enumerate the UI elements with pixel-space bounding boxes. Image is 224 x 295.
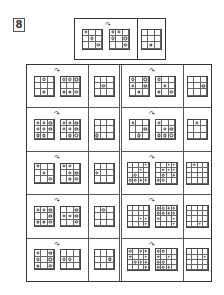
grid-answer[interactable]	[187, 119, 208, 140]
exercise-row: ↷	[27, 65, 119, 108]
grid-first	[34, 76, 55, 97]
answer-cell	[89, 65, 119, 107]
rotation-pair-cell: ↷	[122, 108, 184, 150]
grid-cell-circle	[123, 42, 129, 48]
rotation-pair-cell: ↷	[27, 65, 89, 107]
grid-cell-circle	[74, 133, 80, 139]
answer-cell	[89, 195, 119, 237]
exercise-row: ↷	[122, 108, 211, 151]
grid-cell-circle	[74, 176, 80, 182]
exercise-row: ↷	[27, 195, 119, 238]
problem-number: 8	[13, 18, 25, 32]
grid-second	[155, 205, 178, 228]
grid-cell-circle	[48, 263, 54, 269]
grid-cell-circle	[169, 133, 175, 139]
rotate-arrow-icon: ↷	[54, 242, 60, 249]
grid-cell	[48, 89, 54, 95]
rotate-arrow-icon: ↷	[149, 155, 155, 162]
grid-second	[60, 76, 81, 97]
answer-cell	[184, 152, 211, 194]
grid-second	[155, 162, 178, 185]
grid-answer[interactable]	[187, 76, 208, 97]
rotate-arrow-icon: ↷	[105, 22, 111, 29]
answer-cell	[184, 108, 211, 150]
grid-cell-circle	[74, 220, 80, 226]
exercise-column-right: ↷↷↷↷↷	[122, 65, 211, 281]
grid-cell	[203, 265, 208, 270]
example-grid-answer	[141, 29, 162, 50]
grid-cell	[155, 42, 161, 48]
exercise-row: ↷	[122, 65, 211, 108]
grid-first	[34, 206, 55, 227]
grid-first	[34, 249, 55, 270]
rotation-pair-cell: ↷	[122, 239, 184, 281]
rotate-arrow-icon: ↷	[149, 111, 155, 118]
exercise-row: ↷	[122, 152, 211, 195]
grid-cell-circle	[144, 178, 149, 183]
grid-second	[60, 249, 81, 270]
grid-answer[interactable]	[186, 248, 209, 271]
grid-answer[interactable]	[94, 206, 115, 227]
rotate-arrow-icon: ↷	[54, 111, 60, 118]
grid-cell-circle	[74, 89, 80, 95]
grid-first	[129, 76, 150, 97]
grid-cell	[172, 178, 177, 183]
grid-answer[interactable]	[94, 76, 115, 97]
grid-cell	[107, 220, 113, 226]
grid-second	[60, 163, 81, 184]
example-rotation-pair: ↷	[75, 19, 138, 59]
grid-cell	[107, 133, 113, 139]
rotation-pair-cell: ↷	[122, 65, 184, 107]
answer-cell	[184, 65, 211, 107]
rotation-pair-cell: ↷	[27, 239, 89, 281]
grid-cell	[48, 133, 54, 139]
example-grid-first	[82, 29, 103, 50]
rotation-pair-cell: ↷	[27, 195, 89, 237]
grid-cell	[107, 263, 113, 269]
answer-cell	[184, 239, 211, 281]
grid-cell-circle	[144, 265, 149, 270]
grid-cell	[74, 263, 80, 269]
example-answer-cell	[138, 19, 165, 59]
rotate-arrow-icon: ↷	[149, 68, 155, 75]
grid-answer[interactable]	[94, 119, 115, 140]
grid-second	[155, 119, 176, 140]
grid-first	[127, 162, 150, 185]
grid-cell	[172, 265, 177, 270]
grid-cell	[203, 222, 208, 227]
rotation-pair-cell: ↷	[27, 152, 89, 194]
exercise-row: ↷	[27, 152, 119, 195]
rotate-arrow-icon: ↷	[54, 68, 60, 75]
grid-cell	[201, 89, 207, 95]
grid-cell-circle	[144, 222, 149, 227]
grid-first	[34, 119, 55, 140]
grid-cell-circle	[96, 42, 102, 48]
grid-cell	[203, 178, 208, 183]
grid-cell	[201, 133, 207, 139]
grid-second	[155, 76, 176, 97]
grid-cell	[107, 176, 113, 182]
exercise-row: ↷	[122, 239, 211, 281]
grid-answer[interactable]	[94, 163, 115, 184]
rotation-pair-cell: ↷	[122, 195, 184, 237]
grid-first	[127, 205, 150, 228]
rotate-arrow-icon: ↷	[149, 242, 155, 249]
grid-cell-circle	[48, 220, 54, 226]
example-grid-second	[109, 29, 130, 50]
rotate-arrow-icon: ↷	[149, 198, 155, 205]
grid-cell	[143, 133, 149, 139]
rotation-pair-cell: ↷	[27, 108, 89, 150]
rotate-arrow-icon: ↷	[54, 155, 60, 162]
answer-cell	[184, 195, 211, 237]
grid-first	[129, 119, 150, 140]
grid-answer[interactable]	[94, 249, 115, 270]
grid-cell	[107, 89, 113, 95]
exercise-row: ↷	[122, 195, 211, 238]
answer-cell	[89, 108, 119, 150]
grid-answer[interactable]	[186, 162, 209, 185]
grid-answer[interactable]	[186, 205, 209, 228]
exercise-table: ↷↷↷↷↷ ↷↷↷↷↷	[26, 64, 212, 282]
grid-second	[60, 206, 81, 227]
grid-cell-circle	[172, 222, 177, 227]
answer-cell	[89, 152, 119, 194]
